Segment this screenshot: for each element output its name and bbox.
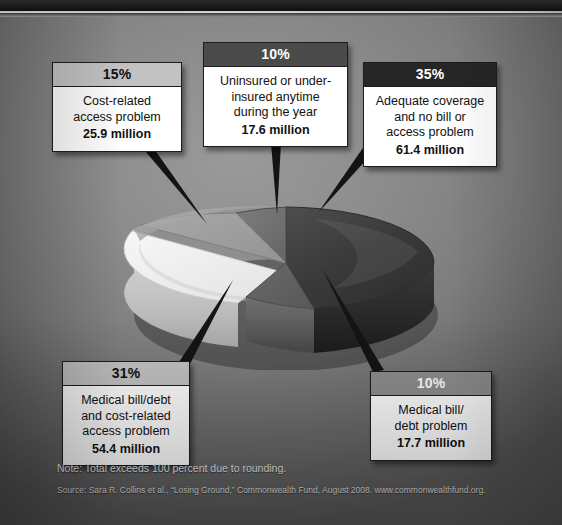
page-vignette [0, 0, 562, 525]
chart-page: 15% Cost-related access problem 25.9 mil… [0, 0, 562, 525]
page-edge-highlight [0, 11, 562, 13]
page-edge-band [0, 0, 562, 17]
